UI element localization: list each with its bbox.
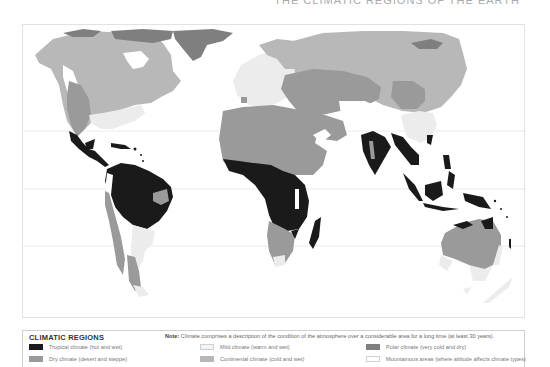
legend-label: Mild climate (warm and wet) — [220, 344, 290, 350]
north-america — [35, 29, 233, 167]
world-map-svg — [23, 25, 526, 319]
polar-swatch — [366, 344, 380, 350]
continental-swatch — [200, 356, 214, 362]
map-legend: CLIMATIC REGIONS Note: Climate comprises… — [22, 330, 525, 367]
legend-item-polar: Polar climate (very cold and dry) — [366, 344, 466, 350]
legend-title: CLIMATIC REGIONS — [29, 333, 104, 342]
legend-item-continental: Continental climate (cold and wet) — [200, 356, 304, 362]
legend-item-mild: Mild climate (warm and wet) — [200, 344, 290, 350]
legend-item-mountainous: Mountainous areas (where altitude affect… — [366, 356, 526, 362]
legend-label: Polar climate (very cold and dry) — [386, 344, 466, 350]
legend-label: Mountainous areas (where altitude affect… — [386, 356, 526, 362]
africa — [219, 105, 347, 267]
page-header-title: THE CLIMATIC REGIONS OF THE EARTH — [274, 0, 520, 6]
south-america — [105, 163, 173, 297]
australia — [439, 217, 513, 303]
dry-swatch — [29, 356, 43, 362]
mountainous-swatch — [366, 356, 380, 362]
legend-note: Note: Climate comprises a description of… — [165, 333, 494, 339]
legend-label: Tropical climate (hot and wet) — [49, 344, 122, 350]
legend-note-text: Climate comprises a description of the c… — [179, 333, 494, 339]
mild-swatch — [200, 344, 214, 350]
legend-note-label: Note: — [165, 333, 179, 339]
world-climate-map — [22, 24, 525, 318]
legend-item-tropical: Tropical climate (hot and wet) — [29, 344, 122, 350]
legend-item-dry: Dry climate (desert and steppe) — [29, 356, 127, 362]
legend-label: Continental climate (cold and wet) — [220, 356, 304, 362]
legend-label: Dry climate (desert and steppe) — [49, 356, 127, 362]
tropical-swatch — [29, 344, 43, 350]
